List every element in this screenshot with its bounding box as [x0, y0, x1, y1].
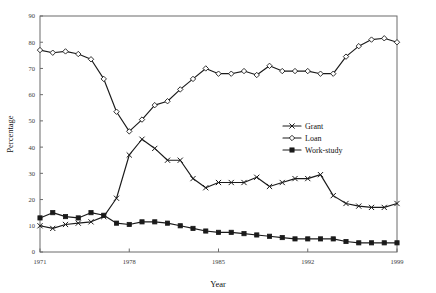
- x-tick-label: 1978: [123, 258, 136, 265]
- data-point-marker: [190, 176, 195, 181]
- data-point-marker: [331, 193, 336, 198]
- data-point-marker: [38, 216, 42, 220]
- data-point-marker: [344, 239, 348, 243]
- data-point-marker: [178, 224, 182, 228]
- y-tick-label: 40: [29, 144, 36, 151]
- data-point-marker: [306, 237, 310, 241]
- data-point-marker: [331, 237, 335, 241]
- data-point-marker: [395, 241, 399, 245]
- data-point-marker: [292, 68, 297, 73]
- data-point-marker: [229, 230, 233, 234]
- data-point-marker: [114, 221, 118, 225]
- legend-item-work-study: Work-study: [283, 146, 343, 155]
- data-point-marker: [318, 71, 323, 76]
- data-point-marker: [267, 234, 271, 238]
- data-point-marker: [382, 241, 386, 245]
- data-point-marker: [241, 68, 246, 73]
- data-point-marker: [102, 213, 106, 217]
- data-point-marker: [369, 241, 373, 245]
- series-line: [40, 139, 397, 228]
- data-point-marker: [382, 36, 387, 41]
- x-tick-label: 1999: [391, 258, 404, 265]
- y-tick-label: 60: [29, 91, 36, 98]
- data-point-marker: [229, 71, 234, 76]
- data-point-marker: [153, 220, 157, 224]
- data-point-marker: [152, 146, 157, 151]
- legend-item-grant: Grant: [283, 122, 324, 131]
- x-tick-label: 1992: [301, 258, 314, 265]
- y-tick-label: 50: [29, 117, 36, 124]
- data-point-marker: [76, 216, 80, 220]
- legend-item-label: Loan: [305, 134, 321, 143]
- data-point-marker: [394, 40, 399, 45]
- data-point-marker: [280, 68, 285, 73]
- series-grant: [37, 137, 399, 231]
- data-point-marker: [165, 221, 169, 225]
- legend-item-label: Grant: [305, 122, 324, 131]
- data-point-marker: [318, 237, 322, 241]
- data-point-marker: [37, 47, 42, 52]
- data-point-marker: [140, 220, 144, 224]
- line-chart: 0102030405060708090 19711978198519921999…: [0, 0, 436, 293]
- data-point-marker: [203, 185, 208, 190]
- series-work-study: [38, 211, 399, 245]
- data-point-marker: [293, 237, 297, 241]
- data-point-marker: [139, 137, 144, 142]
- data-point-marker: [63, 215, 67, 219]
- data-point-marker: [369, 37, 374, 42]
- data-point-marker: [216, 230, 220, 234]
- chart-legend: GrantLoanWork-study: [283, 122, 343, 155]
- y-tick-label: 80: [29, 39, 36, 46]
- data-point-marker: [357, 241, 361, 245]
- data-point-marker: [50, 50, 55, 55]
- x-tick-label: 1971: [34, 258, 47, 265]
- plot-frame: [40, 16, 397, 252]
- legend-item-label: Work-study: [305, 146, 343, 155]
- x-axis-title: Year: [210, 279, 226, 289]
- data-point-marker: [254, 175, 259, 180]
- data-point-marker: [305, 68, 310, 73]
- data-point-marker: [76, 51, 81, 56]
- data-point-marker: [191, 226, 195, 230]
- y-tick-label: 70: [29, 65, 36, 72]
- data-point-marker: [242, 232, 246, 236]
- data-series-group: [37, 36, 399, 245]
- y-tick-label: 90: [29, 12, 36, 19]
- data-point-marker: [127, 222, 131, 226]
- data-point-marker: [89, 211, 93, 215]
- data-point-marker: [51, 211, 55, 215]
- y-tick-label: 20: [29, 196, 36, 203]
- legend-item-loan: Loan: [283, 134, 321, 143]
- x-axis-ticks: 19711978198519921999: [34, 249, 404, 266]
- series-line: [40, 213, 397, 243]
- data-point-marker: [280, 235, 284, 239]
- y-tick-label: 10: [29, 222, 36, 229]
- data-point-marker: [204, 229, 208, 233]
- data-point-marker: [63, 49, 68, 54]
- legend-marker-diamond-icon: [289, 135, 294, 140]
- series-loan: [37, 36, 399, 134]
- series-line: [40, 38, 397, 131]
- legend-marker-square-icon: [290, 148, 294, 152]
- data-point-marker: [255, 233, 259, 237]
- data-point-marker: [216, 71, 221, 76]
- x-tick-label: 1985: [212, 258, 225, 265]
- y-tick-label: 0: [32, 248, 35, 255]
- chart-container: 0102030405060708090 19711978198519921999…: [0, 0, 436, 293]
- y-tick-label: 30: [29, 170, 36, 177]
- y-axis-title: Percentage: [5, 115, 15, 153]
